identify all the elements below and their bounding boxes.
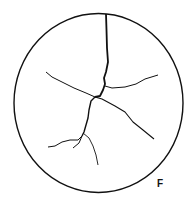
crack-branch-lower [82,97,95,136]
crack-branch-lower-right [95,97,154,139]
specimen-outline [14,14,183,193]
figure-label: F [157,179,163,189]
crack-diagram: F [0,0,194,203]
crack-branch-left [46,72,95,97]
crack-branch-upper-right [105,75,158,88]
crack-diagram-svg [0,0,194,203]
crack-main-vertical [95,14,108,97]
crack-subbranch-lower-right [83,133,98,165]
